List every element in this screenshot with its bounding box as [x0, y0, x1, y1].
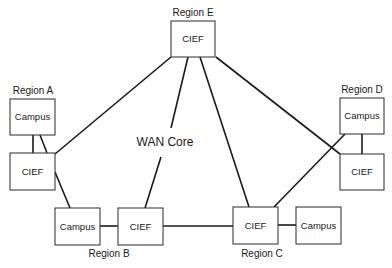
region-b-cief-node[interactable]: CIEF [118, 208, 163, 245]
link-c-cief-to-d-campus [274, 134, 345, 207]
region-e: Region E CIEF [171, 7, 215, 57]
link-e-to-d [216, 57, 340, 154]
wan-core-label: WAN Core [137, 135, 194, 149]
region-a-campus-label: Campus [15, 111, 51, 122]
link-e-to-b-lower [145, 157, 161, 208]
region-d-campus-label: Campus [344, 110, 380, 121]
region-c-label: Region C [241, 248, 283, 259]
region-c-cief-label: CIEF [245, 220, 267, 231]
link-a-cief-to-b-campus [55, 172, 70, 208]
region-e-label: Region E [172, 7, 213, 18]
links [33, 57, 362, 226]
region-d-label: Region D [341, 84, 383, 95]
network-diagram: Region E CIEF Region A Campus CIEF Campu… [0, 0, 392, 268]
region-b: Campus CIEF Region B [55, 208, 163, 259]
region-d-cief-node[interactable]: CIEF [340, 154, 384, 190]
link-a-campus-to-a-cief-2 [40, 135, 47, 153]
region-a-label: Region A [13, 85, 54, 96]
region-d-cief-label: CIEF [351, 166, 373, 177]
region-a-cief-node[interactable]: CIEF [10, 153, 55, 190]
region-d-campus-node[interactable]: Campus [340, 98, 384, 134]
link-e-to-b-upper [171, 57, 188, 128]
link-e-to-c [200, 57, 249, 207]
region-b-campus-label: Campus [60, 221, 96, 232]
region-b-cief-label: CIEF [130, 221, 152, 232]
region-e-cief-label: CIEF [182, 33, 204, 44]
region-c-campus-label: Campus [301, 220, 337, 231]
region-b-label: Region B [88, 248, 129, 259]
region-a-cief-label: CIEF [22, 166, 44, 177]
region-b-campus-node[interactable]: Campus [55, 208, 100, 245]
region-c-campus-node[interactable]: Campus [296, 207, 341, 244]
region-c-cief-node[interactable]: CIEF [233, 207, 278, 244]
region-c: CIEF Campus Region C [233, 207, 341, 259]
region-e-cief-node[interactable]: CIEF [171, 21, 215, 57]
region-a-campus-node[interactable]: Campus [10, 99, 55, 135]
